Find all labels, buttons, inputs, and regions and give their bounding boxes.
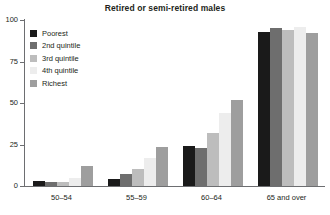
bar bbox=[81, 166, 93, 186]
chart-title: Retired or semi-retired males bbox=[0, 3, 330, 13]
chart-legend: Poorest2nd quintile3rd quintile4th quint… bbox=[30, 27, 80, 90]
y-tick-label: 75 bbox=[0, 58, 18, 66]
bar-group bbox=[258, 20, 318, 186]
x-axis-line bbox=[24, 186, 325, 187]
legend-item-label: Richest bbox=[42, 80, 67, 88]
bar bbox=[144, 158, 156, 186]
x-tick-label: 60–64 bbox=[174, 193, 249, 202]
bar-chart: Retired or semi-retired males 0255075100… bbox=[0, 0, 330, 215]
legend-swatch-icon bbox=[30, 55, 37, 62]
y-tick-label: 50 bbox=[0, 99, 18, 107]
legend-item: 2nd quintile bbox=[30, 40, 80, 53]
bar bbox=[270, 28, 282, 186]
legend-item-label: 4th quintile bbox=[42, 67, 78, 75]
bar-group bbox=[183, 20, 243, 186]
bar bbox=[57, 182, 69, 186]
bar bbox=[294, 27, 306, 186]
legend-item: Poorest bbox=[30, 27, 80, 40]
y-tick-label: 100 bbox=[0, 16, 18, 24]
bar bbox=[69, 178, 81, 186]
legend-item: 3rd quintile bbox=[30, 52, 80, 65]
legend-swatch-icon bbox=[30, 67, 37, 74]
y-tick-label: 0 bbox=[0, 182, 18, 190]
legend-item: 4th quintile bbox=[30, 65, 80, 78]
x-tick-label: 65 and over bbox=[249, 193, 324, 202]
bar bbox=[207, 133, 219, 186]
y-tick-label: 25 bbox=[0, 141, 18, 149]
bar bbox=[231, 100, 243, 186]
bar bbox=[282, 30, 294, 186]
bar bbox=[306, 33, 318, 186]
bar bbox=[183, 146, 195, 186]
legend-item-label: Poorest bbox=[42, 30, 68, 38]
legend-swatch-icon bbox=[30, 42, 37, 49]
legend-swatch-icon bbox=[30, 30, 37, 37]
bar bbox=[45, 182, 57, 186]
x-tick-label: 50–54 bbox=[24, 193, 99, 202]
bar bbox=[219, 113, 231, 186]
bar bbox=[195, 148, 207, 186]
y-tick-mark bbox=[20, 186, 24, 187]
legend-swatch-icon bbox=[30, 80, 37, 87]
x-tick-label: 55–59 bbox=[99, 193, 174, 202]
bar bbox=[156, 147, 168, 186]
bar bbox=[120, 174, 132, 186]
legend-item-label: 2nd quintile bbox=[42, 42, 80, 50]
bar bbox=[108, 179, 120, 186]
bar bbox=[33, 181, 45, 186]
bar-group bbox=[108, 20, 168, 186]
bar bbox=[258, 32, 270, 186]
bar bbox=[132, 169, 144, 186]
legend-item: Richest bbox=[30, 77, 80, 90]
legend-item-label: 3rd quintile bbox=[42, 55, 79, 63]
